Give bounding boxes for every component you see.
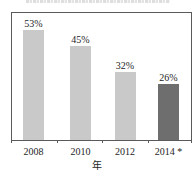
bar-value-label: 45% (61, 35, 101, 45)
bar-2012 (115, 72, 136, 140)
bar-value-label: 53% (14, 19, 54, 29)
x-axis-tick (102, 140, 103, 143)
bar-2010 (70, 46, 91, 140)
x-axis-tick (191, 140, 192, 143)
x-tick-label: 2010 (59, 147, 103, 157)
x-axis-tick (11, 140, 12, 143)
chart-canvas: 53% 45% 32% 26% 2008 2010 2012 2014 * 年 (0, 0, 196, 179)
x-axis-tick (148, 140, 149, 143)
x-tick-label: 2012 (103, 147, 147, 157)
x-tick-label: 2014 * (147, 147, 191, 157)
x-axis-tick (57, 140, 58, 143)
bar-2008 (23, 30, 44, 140)
x-tick-label: 2008 (12, 147, 56, 157)
bar-2014 (158, 84, 179, 140)
x-axis-title: 年 (87, 160, 107, 171)
bar-value-label: 26% (149, 73, 189, 83)
clipped-title-fragment (26, 0, 170, 3)
bar-value-label: 32% (105, 61, 145, 71)
